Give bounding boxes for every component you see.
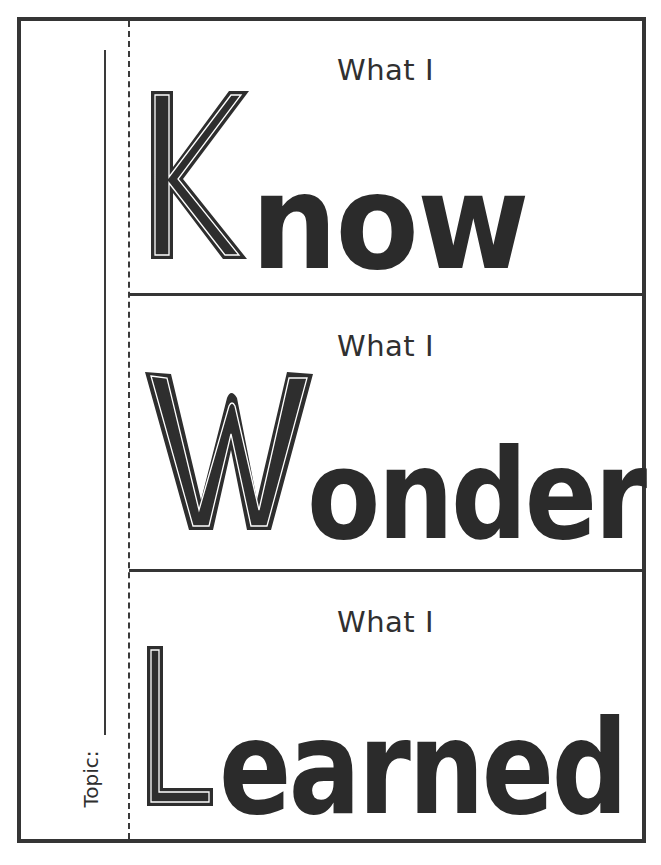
panel-prefix: What I — [131, 53, 640, 87]
panel-heading-learned: earned — [145, 644, 661, 808]
panel-learned[interactable]: What I earned — [131, 572, 640, 835]
panel-prefix: What I — [131, 329, 640, 363]
word-rest: now — [251, 156, 528, 288]
panel-heading-wonder: onder — [143, 368, 661, 534]
outlined-capital-w-icon — [143, 368, 313, 534]
panel-know[interactable]: What I now — [131, 21, 640, 293]
outlined-capital-l-icon — [145, 644, 215, 808]
panel-wonder[interactable]: What I onder — [131, 296, 640, 569]
topic-label: Topic: — [79, 750, 103, 807]
topic-write-line[interactable] — [104, 50, 106, 735]
panel-prefix: What I — [131, 605, 640, 639]
word-rest: onder — [307, 433, 645, 557]
panel-heading-know: now — [145, 87, 552, 263]
word-rest: earned — [219, 703, 626, 833]
fold-dashed-line — [128, 21, 130, 839]
outlined-capital-k-icon — [145, 87, 249, 263]
